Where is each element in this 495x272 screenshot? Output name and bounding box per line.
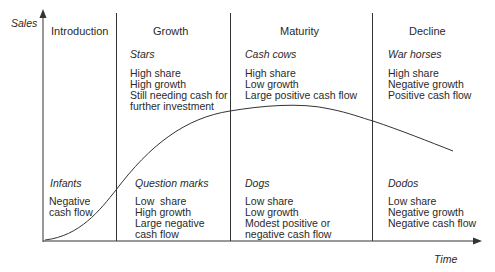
cash-cows-title: Cash cows bbox=[245, 49, 296, 60]
war-horses-line-3: Positive cash flow bbox=[388, 90, 471, 101]
stage-maturity: Maturity bbox=[280, 26, 319, 37]
y-axis-label: Sales bbox=[11, 18, 37, 29]
question-marks-line-4: cash flow bbox=[135, 229, 179, 240]
x-axis-arrow-icon bbox=[473, 238, 482, 245]
x-axis-label: Time bbox=[434, 254, 457, 265]
stars-title: Stars bbox=[130, 49, 155, 60]
war-horses-title: War horses bbox=[388, 49, 442, 60]
cash-cows-line-3: Large positive cash flow bbox=[245, 90, 357, 101]
stars-line-4: further investment bbox=[130, 101, 214, 112]
stage-introduction: Introduction bbox=[51, 26, 108, 37]
dodos-line-3: Negative cash flow bbox=[388, 218, 476, 229]
dogs-line-4: negative cash flow bbox=[245, 229, 331, 240]
y-axis-arrow-icon bbox=[40, 9, 47, 18]
stage-decline: Decline bbox=[409, 26, 446, 37]
question-marks-title: Question marks bbox=[135, 178, 209, 189]
infants-title: Infants bbox=[50, 178, 82, 189]
dodos-title: Dodos bbox=[388, 178, 418, 189]
dogs-title: Dogs bbox=[245, 178, 270, 189]
product-life-cycle-diagram: Sales Time Introduction Growth Maturity … bbox=[0, 0, 495, 272]
stage-growth: Growth bbox=[153, 26, 188, 37]
infants-line-2: cash flow bbox=[49, 207, 93, 218]
